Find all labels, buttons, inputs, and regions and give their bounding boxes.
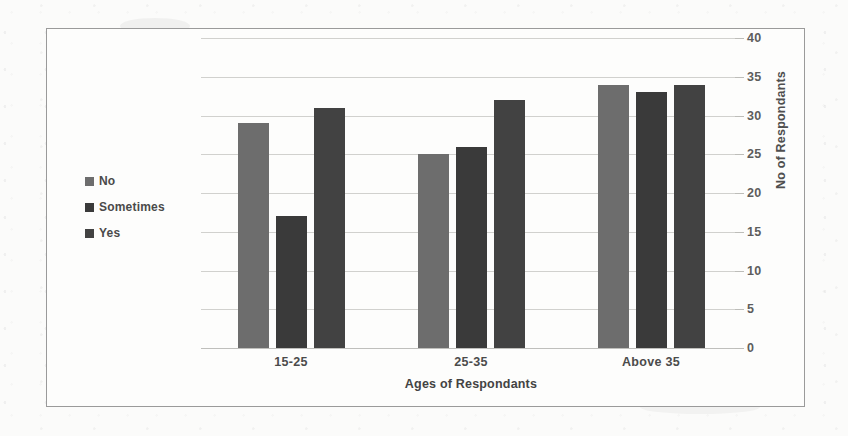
legend-swatch-icon [85,229,94,238]
legend-item-label: No [99,174,115,188]
y-axis-tick-mark [735,271,744,272]
y-axis-tick-mark [735,116,744,117]
bar-yes-above-35[interactable] [674,85,705,349]
y-axis-tick-mark [735,348,744,349]
gridline [201,348,741,349]
bar-group [201,38,381,348]
x-axis-title: Ages of Respondants [201,377,741,391]
legend-item-label: Sometimes [99,200,165,214]
bar-no-above-35[interactable] [598,85,629,349]
bar-sometimes-15-25[interactable] [276,216,307,348]
y-axis-tick-label: 5 [747,302,793,316]
bar-groups [201,38,741,348]
chart-frame: 4035302520151050 No of Respondants 15-25… [46,28,805,407]
legend-swatch-icon [85,177,94,186]
bar-yes-25-35[interactable] [494,100,525,348]
y-axis-tick-label: 15 [747,225,793,239]
bar-no-25-35[interactable] [418,154,449,348]
legend-swatch-icon [85,203,94,212]
y-axis-tick-label: 0 [747,341,793,355]
bar-sometimes-above-35[interactable] [636,92,667,348]
plot-area [201,38,741,348]
y-axis-tick-label: 40 [747,31,793,45]
y-axis-tick-mark [735,232,744,233]
y-axis-tick-mark [735,77,744,78]
y-axis-title: No of Respondants [774,71,788,189]
x-axis-labels: 15-2525-35Above 35 [201,355,741,369]
y-axis-tick-mark [735,38,744,39]
x-axis-tick-label: Above 35 [561,355,741,369]
bar-sometimes-25-35[interactable] [456,147,487,349]
chart-legend: NoSometimesYes [85,174,165,240]
x-axis-tick-label: 25-35 [381,355,561,369]
bar-group [381,38,561,348]
legend-item-yes[interactable]: Yes [85,226,165,240]
y-axis-tick-label: 10 [747,264,793,278]
y-axis-tick-mark [735,309,744,310]
y-axis-tick-mark [735,193,744,194]
bar-no-15-25[interactable] [238,123,269,348]
x-axis-tick-label: 15-25 [201,355,381,369]
y-axis-tick-mark [735,154,744,155]
bar-yes-15-25[interactable] [314,108,345,348]
bar-group [561,38,741,348]
legend-item-sometimes[interactable]: Sometimes [85,200,165,214]
legend-item-label: Yes [99,226,120,240]
legend-item-no[interactable]: No [85,174,165,188]
